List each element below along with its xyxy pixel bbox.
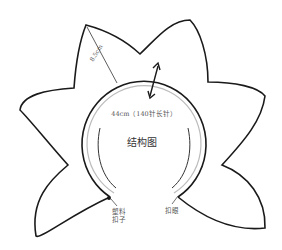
diagram-title: 结构图 xyxy=(127,136,157,148)
buttonhole-pointer xyxy=(172,196,178,204)
button-pointer xyxy=(111,199,117,206)
neck-measure-label: 44cm（140针长针） xyxy=(111,109,176,118)
buttonhole-label: 扣眼 xyxy=(165,206,179,215)
inner-arc-left xyxy=(98,128,116,188)
petal-outline xyxy=(20,20,265,236)
button-label-line2: 扣子 xyxy=(112,215,126,224)
collar-structure-diagram: 8.5cm 44cm（140针长针） 结构图 塑料 扣子 扣眼 xyxy=(0,0,282,250)
inner-arc-right xyxy=(172,128,190,188)
radius-label: 8.5cm xyxy=(88,43,104,63)
button-label-line1: 塑料 xyxy=(112,207,126,216)
button-icon xyxy=(107,196,111,200)
